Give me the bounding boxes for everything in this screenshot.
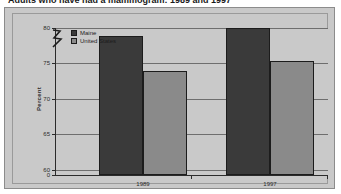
legend-swatch-icon-maine — [71, 30, 77, 36]
y-tick-label-80: 80 — [43, 25, 50, 31]
y-tick-label-65: 65 — [43, 131, 50, 137]
bar-maine-1997 — [226, 28, 270, 175]
chart-title-strip: Adults who have had a mammogram: 1989 an… — [0, 0, 341, 7]
chart-screenshot: Adults who have had a mammogram: 1989 an… — [0, 0, 341, 194]
y-axis-title: Percent — [36, 86, 42, 110]
legend-item-maine: Maine — [71, 30, 116, 36]
x-tick-label-1997: 1997 — [263, 181, 276, 187]
axis-break-icon — [50, 28, 64, 48]
legend-swatch-icon-united-states — [71, 38, 77, 44]
x-tick-mark-1989 — [191, 175, 192, 179]
bar-maine-1989 — [99, 36, 143, 175]
y-tick-mark-75 — [52, 63, 56, 64]
chart-legend: Maine United States — [71, 30, 116, 44]
x-tick-label-1989: 1989 — [136, 181, 149, 187]
y-tick-label-0: 0 — [47, 172, 50, 178]
legend-label-maine: Maine — [80, 30, 96, 36]
y-tick-label-75: 75 — [43, 60, 50, 66]
y-tick-mark-0 — [52, 175, 56, 176]
y-tick-mark-60 — [52, 170, 56, 171]
gridline-80 — [55, 28, 328, 29]
y-tick-mark-65 — [52, 134, 56, 135]
bar-us-1989 — [143, 71, 187, 175]
y-tick-label-70: 70 — [43, 96, 50, 102]
legend-label-united-states: United States — [80, 38, 116, 44]
x-tick-mark-1997 — [327, 175, 328, 179]
plot-area: 80 75 70 65 60 0 1989 1997 — [55, 28, 328, 176]
bar-us-1997 — [270, 61, 314, 175]
figure-frame: Percent 80 — [4, 7, 335, 189]
legend-item-united-states: United States — [71, 38, 116, 44]
y-tick-mark-70 — [52, 99, 56, 100]
y-axis-line — [55, 28, 56, 176]
figure-inner-frame: Percent 80 — [12, 13, 328, 184]
chart-title: Adults who have had a mammogram: 1989 an… — [8, 0, 231, 5]
